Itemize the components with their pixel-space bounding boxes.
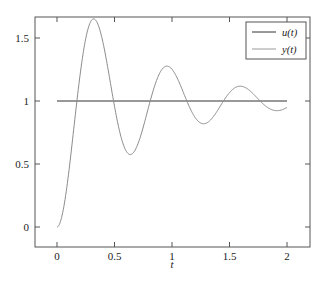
y-tick-label: 0.5 — [15, 158, 29, 170]
x-tick-label: 2 — [284, 250, 290, 262]
legend: u(t) y(t) — [246, 22, 306, 59]
y-tick-label: 1 — [24, 95, 30, 107]
y-tick-label: 1.5 — [15, 32, 29, 44]
x-tick-label: 1.5 — [223, 250, 237, 262]
step-response-chart: 00.511.52 00.511.5 t u(t) y(t) — [0, 0, 321, 289]
x-tick-label: 0 — [54, 250, 60, 262]
legend-label-u: u(t) — [282, 27, 298, 39]
y-tick-label: 0 — [24, 221, 30, 233]
y-ticks: 00.511.5 — [15, 32, 310, 233]
x-tick-label: 0.5 — [108, 250, 122, 262]
legend-label-y: y(t) — [281, 44, 297, 56]
